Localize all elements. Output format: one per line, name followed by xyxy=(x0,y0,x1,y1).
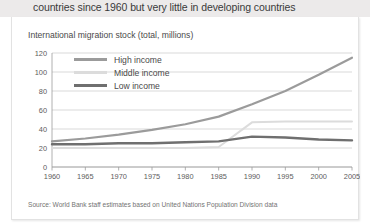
legend-label-high-income: High income xyxy=(114,55,162,65)
headline-text: countries since 1960 but very little in … xyxy=(33,1,296,13)
figure-card: International migration stock (total, mi… xyxy=(11,17,359,220)
legend-swatch-low-income xyxy=(74,84,107,87)
svg-text:2005: 2005 xyxy=(344,172,360,181)
legend-swatch-middle-income xyxy=(74,71,107,73)
legend-label-middle-income: Middle income xyxy=(114,68,169,78)
svg-text:1970: 1970 xyxy=(110,172,126,181)
svg-text:120: 120 xyxy=(35,49,47,58)
legend-item-middle-income: Middle income xyxy=(74,66,224,79)
svg-text:1965: 1965 xyxy=(77,172,93,181)
svg-text:20: 20 xyxy=(39,144,47,153)
svg-text:1995: 1995 xyxy=(277,172,293,181)
legend-item-low-income: Low income xyxy=(74,79,224,92)
screenshot-root: countries since 1960 but very little in … xyxy=(0,0,370,224)
x-tick-labels-group: 1960196519701975198019851990199520002005 xyxy=(44,172,360,181)
legend-label-low-income: Low income xyxy=(114,81,160,91)
x-tick-marks-group xyxy=(52,167,352,171)
svg-text:60: 60 xyxy=(39,106,47,115)
chart-subtitle: International migration stock (total, mi… xyxy=(28,30,193,40)
svg-text:1975: 1975 xyxy=(144,172,160,181)
svg-text:40: 40 xyxy=(39,125,47,134)
legend-swatch-high-income xyxy=(74,58,107,61)
svg-text:80: 80 xyxy=(39,87,47,96)
source-note: Source: World Bank staff estimates based… xyxy=(28,201,277,208)
legend-item-high-income: High income xyxy=(74,53,224,66)
chart-legend: High income Middle income Low income xyxy=(74,53,224,92)
svg-text:0: 0 xyxy=(43,163,47,172)
svg-text:1985: 1985 xyxy=(210,172,226,181)
svg-text:1990: 1990 xyxy=(244,172,260,181)
svg-text:1960: 1960 xyxy=(44,172,60,181)
svg-text:2000: 2000 xyxy=(310,172,326,181)
y-tick-labels-group: 020406080100120 xyxy=(35,49,47,172)
headline-band: countries since 1960 but very little in … xyxy=(0,0,370,17)
svg-text:1980: 1980 xyxy=(177,172,193,181)
svg-text:100: 100 xyxy=(35,68,47,77)
